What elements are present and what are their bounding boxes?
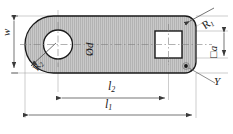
label-surface-mark-y: Y xyxy=(214,76,220,87)
leader-y xyxy=(189,68,215,83)
label-width: w xyxy=(1,29,12,36)
dimension-w xyxy=(11,16,18,73)
label-bore-diameter: Ød xyxy=(84,43,95,56)
label-length-l1: l1 xyxy=(105,98,112,112)
label-square-size: □a xyxy=(208,46,219,58)
reference-point-marker xyxy=(184,64,188,68)
label-length-l2: l2 xyxy=(108,80,115,94)
